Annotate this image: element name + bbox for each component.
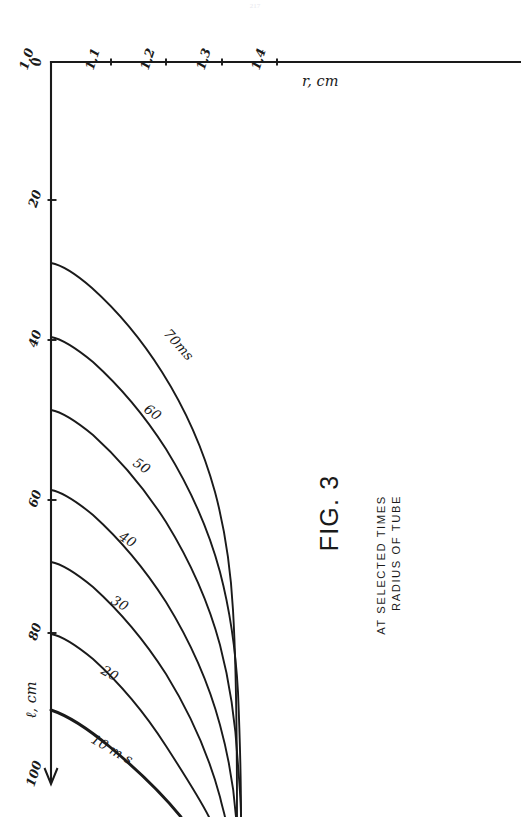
l-tick-label-60: 60 (25, 488, 45, 509)
page-mark: 217 (250, 2, 261, 10)
figure-container: 217 1,0 1,1 1,2 1,3 1,4 (0, 0, 521, 817)
figure-subtitle-line1: RADIUS OF TUBE (390, 495, 402, 611)
figure-subtitle-line2: AT SELECTED TIMES (375, 495, 387, 635)
l-tick-label-0: 0 (29, 57, 44, 66)
l-axis-title: ℓ, cm (23, 681, 39, 718)
curve-label-50: 50 (130, 454, 153, 477)
curve-10ms (51, 710, 181, 817)
figure-title: FIG. 3 (315, 475, 343, 552)
l-tick-label-40: 40 (25, 328, 45, 349)
l-tick-label-80: 80 (25, 621, 45, 642)
curve-label-20: 20 (98, 661, 122, 684)
curve-label-70ms: 70ms (161, 325, 198, 363)
l-tick-label-100: 100 (23, 759, 45, 789)
curve-40 (51, 490, 236, 817)
l-tick-label-20: 20 (25, 188, 45, 210)
curve-label-40: 40 (116, 527, 140, 550)
title-block: FIG. 3 RADIUS OF TUBE AT SELECTED TIMES (315, 475, 402, 635)
curve-label-30: 30 (109, 592, 132, 615)
r-tick-label-1: 1,1 (82, 46, 103, 71)
r-axis-title: r, cm (302, 73, 338, 89)
curves-group (51, 263, 241, 817)
figure-svg: 217 1,0 1,1 1,2 1,3 1,4 (0, 0, 521, 817)
r-tick-label-4: 1,4 (248, 46, 269, 71)
l-axis-tick-labels: 0 20 40 60 80 100 (23, 57, 45, 788)
r-tick-label-2: 1,2 (137, 46, 158, 72)
r-tick-label-3: 1,3 (193, 46, 214, 72)
curve-label-10ms: 10 m s (89, 731, 136, 768)
r-axis-tick-labels: 1,0 1,1 1,2 1,3 1,4 (16, 46, 269, 72)
curve-20 (51, 634, 209, 817)
curve-label-60: 60 (141, 400, 165, 423)
curve-30 (51, 562, 225, 817)
